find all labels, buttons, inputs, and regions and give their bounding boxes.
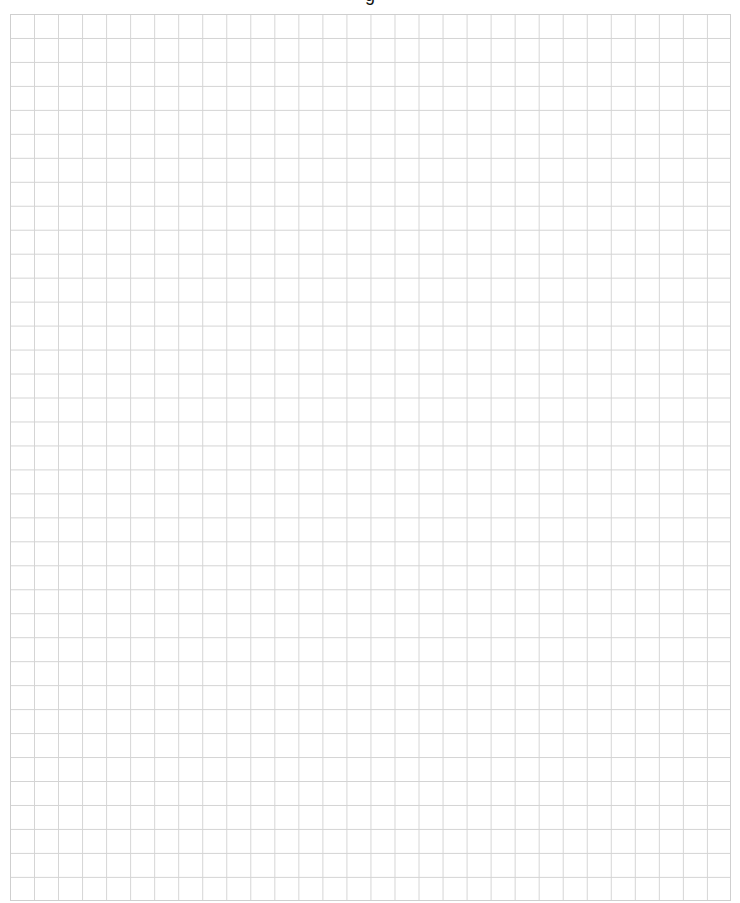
graph-paper-grid [10,14,731,901]
page-title-cropped: g [0,0,740,4]
